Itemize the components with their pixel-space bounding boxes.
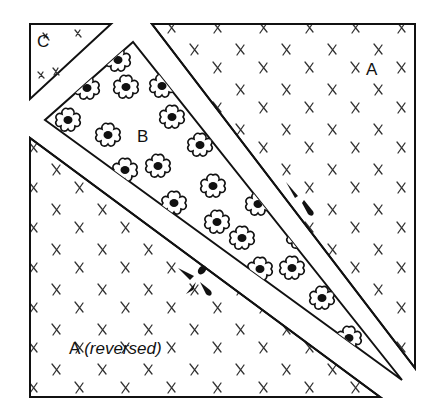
label-a: A [366,61,377,78]
label-c: C [37,33,49,50]
label-a-reversed: A (reversed) [69,340,162,357]
label-b: B [137,128,148,145]
label-reversed-suffix: (reversed) [84,339,161,358]
